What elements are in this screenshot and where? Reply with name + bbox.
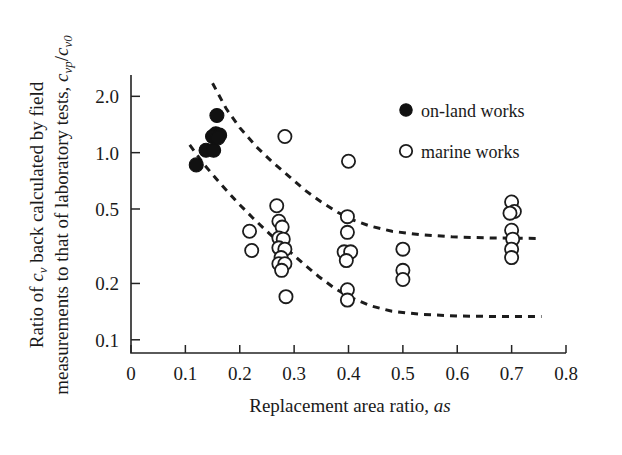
data-point-marine-works: [396, 273, 409, 286]
x-axis-ticks: [131, 345, 566, 353]
data-point-marine-works: [341, 293, 354, 306]
data-point-marine-works: [505, 251, 518, 264]
legend-label-on-land-works: on-land works: [421, 101, 524, 121]
data-point-marine-works: [245, 244, 258, 257]
y-axis-ticks: [131, 96, 140, 339]
data-point-marine-works: [341, 226, 354, 239]
x-axis-title-plain: Replacement area ratio,: [249, 395, 434, 416]
data-point-marine-works: [341, 210, 354, 223]
y-tick-label: 1.0: [95, 143, 119, 164]
data-points: [189, 108, 521, 306]
data-point-marine-works: [278, 130, 291, 143]
x-tick-label: 0.8: [554, 363, 578, 384]
x-tick-label: 0.7: [500, 363, 524, 384]
y-tick-label: 0.5: [95, 199, 119, 220]
data-point-marine-works: [243, 225, 256, 238]
scatter-plot: 00.10.20.30.40.50.60.70.8 2.01.00.50.20.…: [0, 0, 622, 455]
x-axis-title: Replacement area ratio, as: [249, 395, 451, 416]
legend: on-land works marine works: [400, 101, 525, 162]
x-tick-label: 0.6: [445, 363, 469, 384]
legend-marker-marine-works: [400, 145, 412, 157]
chart-figure: 00.10.20.30.40.50.60.70.8 2.01.00.50.20.…: [0, 0, 622, 455]
data-point-marine-works: [340, 254, 353, 267]
y-axis-title: Ratio of cv back calculated by field mea…: [26, 35, 75, 395]
legend-marker-on-land-works: [400, 104, 412, 116]
x-axis-title-italic: as: [434, 395, 451, 416]
y-axis-title-line-2: measurements to that of laboratory tests…: [51, 35, 75, 395]
data-point-marine-works: [342, 155, 355, 168]
x-tick-label: 0: [126, 363, 136, 384]
data-point-marine-works: [279, 290, 292, 303]
x-tick-label: 0.3: [282, 363, 306, 384]
y-axis-tick-labels: 2.01.00.50.20.1: [95, 86, 119, 350]
data-point-marine-works: [503, 207, 516, 220]
y-tick-label: 0.2: [95, 273, 119, 294]
data-point-marine-works: [270, 199, 283, 212]
x-tick-label: 0.1: [174, 363, 198, 384]
y-axis-title-line-1: Ratio of cv back calculated by field: [26, 81, 50, 348]
x-tick-label: 0.2: [228, 363, 252, 384]
y-tick-label: 0.1: [95, 330, 119, 351]
data-point-on-land-works: [211, 131, 225, 145]
legend-label-marine-works: marine works: [421, 142, 519, 162]
data-point-on-land-works: [189, 158, 203, 172]
x-tick-label: 0.4: [337, 363, 361, 384]
y-tick-label: 2.0: [95, 86, 119, 107]
data-point-marine-works: [396, 243, 409, 256]
x-axis-tick-labels: 00.10.20.30.40.50.60.70.8: [126, 363, 578, 384]
data-point-on-land-works: [210, 108, 224, 122]
data-point-marine-works: [275, 264, 288, 277]
x-tick-label: 0.5: [391, 363, 415, 384]
